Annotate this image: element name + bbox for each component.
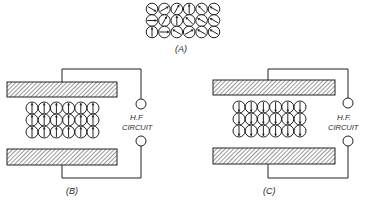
dipole-circle bbox=[171, 26, 183, 38]
panel-b-label: (B) bbox=[66, 186, 78, 196]
dipole-circle bbox=[26, 114, 38, 126]
dipole-circle bbox=[38, 114, 50, 126]
dipole-circle bbox=[38, 126, 50, 138]
dipole-circle bbox=[63, 102, 75, 114]
dipole-circle bbox=[270, 113, 282, 125]
top-plate bbox=[7, 82, 117, 97]
dipole-circle bbox=[294, 101, 306, 113]
dipole-circle bbox=[63, 114, 75, 126]
bottom-plate bbox=[7, 149, 117, 165]
circuit-label: CIRCUIT bbox=[122, 123, 154, 132]
dipole-circle bbox=[171, 3, 183, 15]
dipole-circle bbox=[159, 15, 171, 27]
dipole-circle bbox=[75, 126, 87, 138]
dipole-circle bbox=[26, 126, 38, 138]
terminal-bottom bbox=[343, 136, 353, 146]
bottom-plate bbox=[213, 148, 335, 164]
dipole-circle bbox=[87, 114, 99, 126]
aligned-dipoles-up bbox=[26, 102, 99, 138]
terminal-top bbox=[136, 99, 146, 109]
dipole-circle bbox=[26, 102, 38, 114]
dipole-circle bbox=[146, 26, 158, 38]
dipole-circle bbox=[245, 113, 257, 125]
dipole-circle bbox=[270, 101, 282, 113]
dipole-circle bbox=[50, 102, 62, 114]
dipole-circle bbox=[38, 102, 50, 114]
dipole-circle bbox=[63, 126, 75, 138]
dipole-circle bbox=[294, 113, 306, 125]
dipole-circle bbox=[208, 26, 220, 38]
dipole-circle bbox=[171, 15, 183, 27]
dipole-circle bbox=[257, 101, 269, 113]
top-plate bbox=[213, 80, 335, 95]
dipole-circle bbox=[294, 125, 306, 137]
dipole-circle bbox=[208, 15, 220, 27]
dipole-circle bbox=[87, 102, 99, 114]
dipole-circle bbox=[245, 101, 257, 113]
dipole-circle bbox=[159, 3, 171, 15]
dipole-circle bbox=[257, 113, 269, 125]
dipole-circle bbox=[233, 101, 245, 113]
dipole-circle bbox=[146, 15, 158, 27]
dipole-circle bbox=[196, 26, 208, 38]
panel-c-label: (C) bbox=[263, 186, 276, 196]
dipole-circle bbox=[196, 15, 208, 27]
dipole-circle bbox=[75, 102, 87, 114]
diagram-canvas: (A) H.F CIRCUIT (B) H.F. CIRCUIT (C) bbox=[0, 0, 369, 200]
dipole-circle bbox=[87, 126, 99, 138]
aligned-dipoles-down bbox=[233, 101, 306, 137]
dipole-circle bbox=[146, 3, 158, 15]
dipole-circle bbox=[245, 125, 257, 137]
dipole-circle bbox=[196, 3, 208, 15]
dipole-circle bbox=[183, 26, 195, 38]
dipole-circle bbox=[159, 26, 171, 38]
hf-label: H.F. bbox=[337, 113, 351, 122]
hf-label: H.F bbox=[130, 113, 144, 122]
dipole-circle bbox=[75, 114, 87, 126]
dipole-circle bbox=[233, 125, 245, 137]
panel-b: H.F CIRCUIT (B) bbox=[7, 69, 154, 196]
dipole-circle bbox=[208, 3, 220, 15]
dipole-circle bbox=[270, 125, 282, 137]
dipole-circle bbox=[233, 113, 245, 125]
dipole-circle bbox=[50, 126, 62, 138]
terminal-top bbox=[343, 98, 353, 108]
circuit-label: CIRCUIT bbox=[328, 123, 360, 132]
panel-a-random-dipoles bbox=[146, 3, 220, 38]
dipole-circle bbox=[282, 125, 294, 137]
panel-a-label: (A) bbox=[175, 44, 187, 54]
dipole-circle bbox=[282, 113, 294, 125]
dipole-circle bbox=[257, 125, 269, 137]
dipole-circle bbox=[183, 3, 195, 15]
dipole-circle bbox=[183, 15, 195, 27]
dipole-circle bbox=[282, 101, 294, 113]
terminal-bottom bbox=[136, 136, 146, 146]
panel-c: H.F. CIRCUIT (C) bbox=[213, 69, 360, 196]
dipole-circle bbox=[50, 114, 62, 126]
